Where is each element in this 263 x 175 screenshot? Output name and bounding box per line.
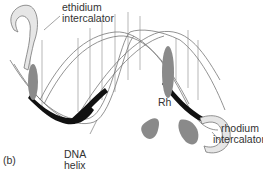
rhodium-groove-ellipse: [162, 46, 174, 98]
dna-label-line2: helix: [64, 160, 86, 171]
gray-blob-left: [141, 118, 159, 139]
ethidium-groove-ellipse: [28, 64, 38, 100]
ethidium-intercalator-shape: [11, 5, 38, 70]
panel-label: (b): [3, 155, 16, 166]
ethidium-label-line2: intercalator: [62, 13, 114, 24]
gray-blob-right: [178, 120, 198, 145]
dna-helix-diagram: [0, 0, 263, 175]
rh-label: Rh: [158, 97, 171, 108]
dna-dark-strand: [28, 80, 205, 124]
rhodium-label-line2: intercalator: [213, 134, 263, 145]
